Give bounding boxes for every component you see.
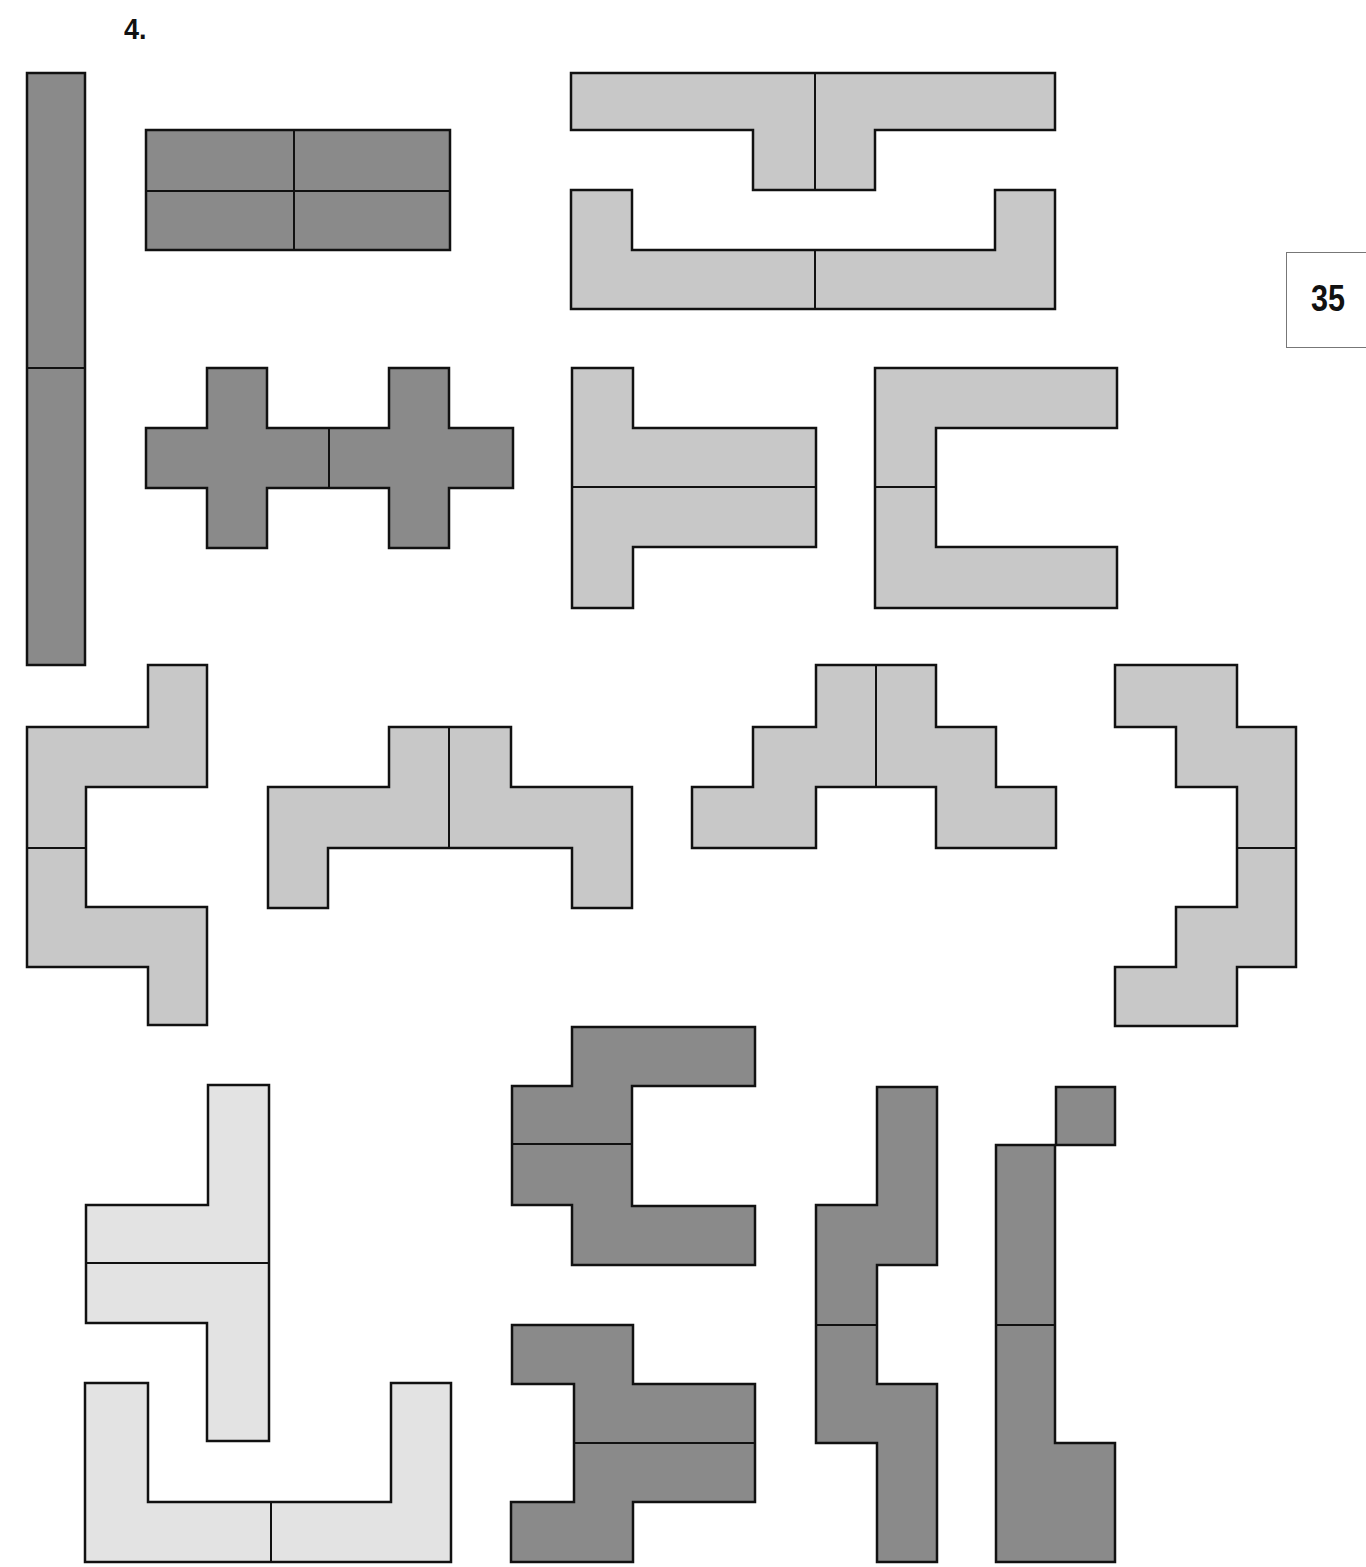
shape-bar-vertical	[27, 73, 85, 665]
shape-u-open	[571, 190, 1055, 309]
shape-dark-s1	[816, 1087, 937, 1562]
shape-dark-c	[512, 1027, 755, 1265]
shape-outline	[512, 1027, 755, 1265]
shape-dark-s2	[996, 1087, 1115, 1562]
shape-rect-2x2	[146, 130, 450, 250]
shape-c-shape	[875, 368, 1117, 608]
shape-dark-h	[511, 1325, 755, 1562]
shape-s-left	[27, 665, 207, 1025]
shape-outline	[1115, 665, 1296, 1026]
shape-outline	[27, 665, 207, 1025]
shape-h-shape	[572, 368, 816, 608]
shape-step-u	[268, 727, 632, 908]
shape-t-top	[571, 73, 1055, 190]
shape-stairs	[692, 665, 1056, 848]
shape-double-cross	[146, 368, 513, 548]
shape-outline	[692, 665, 1056, 848]
shape-outline	[571, 73, 1055, 190]
shape-outline	[571, 190, 1055, 309]
shape-s-right	[1115, 665, 1296, 1026]
